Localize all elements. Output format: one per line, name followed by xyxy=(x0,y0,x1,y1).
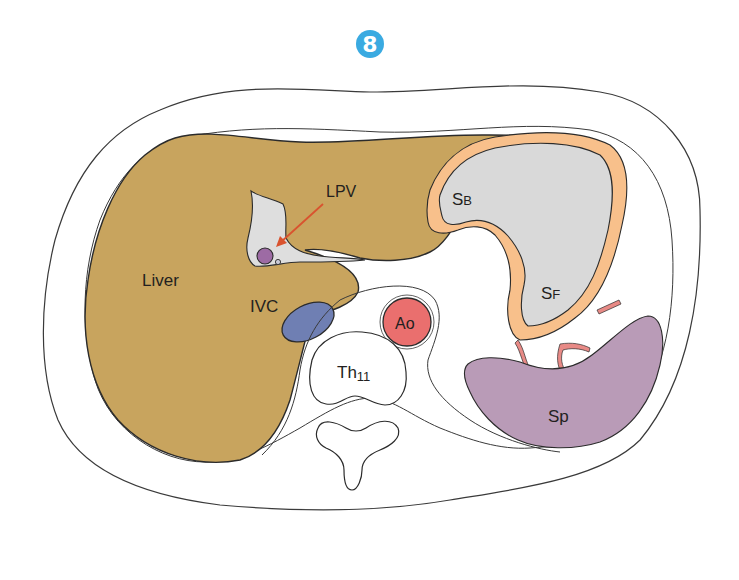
label-liver: Liver xyxy=(142,271,179,290)
label-ao: Ao xyxy=(395,315,415,332)
figure-number: 8 xyxy=(362,32,377,57)
label-ivc: IVC xyxy=(250,297,278,316)
lpv-small-vessel xyxy=(275,259,280,264)
label-stomach-body: SB xyxy=(452,190,472,209)
label-lpv: LPV xyxy=(326,183,357,200)
label-stomach-fundus: SF xyxy=(541,284,560,303)
lpv-vessel xyxy=(257,248,273,264)
anatomy-diagram: 8 Liver LPV IVC Ao Th11 SB xyxy=(0,0,739,580)
label-spleen: Sp xyxy=(548,407,569,426)
figure-number-badge: 8 xyxy=(356,30,384,58)
